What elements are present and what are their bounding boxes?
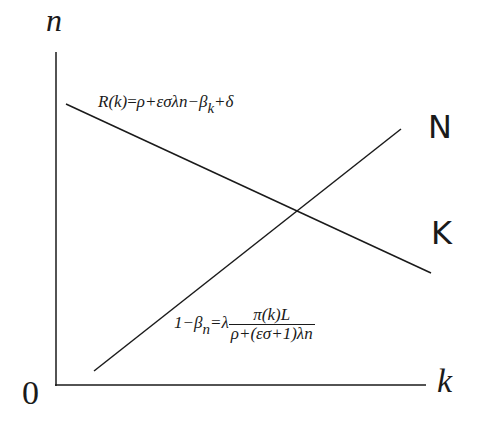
diagram-canvas (0, 0, 481, 428)
k-eq-tail: +δ (214, 92, 233, 111)
y-axis-label: n (46, 2, 62, 39)
k-eq-rhs: ρ+εσλn−β (137, 92, 208, 111)
x-axis-label: k (437, 362, 452, 400)
n-curve-equation: 1−βn=λπ(k)Lρ+(εσ+1)λn (174, 306, 315, 343)
k-curve-equation: R(k)=ρ+εσλn−βk+δ (98, 92, 233, 117)
n-eq-numerator: π(k)L (229, 306, 315, 325)
k-curve-label: K (431, 214, 452, 252)
k-eq-equals: = (127, 92, 137, 111)
n-eq-denominator: ρ+(εσ+1)λn (229, 325, 315, 343)
n-eq-fraction: π(k)Lρ+(εσ+1)λn (229, 306, 315, 343)
origin-label: 0 (22, 374, 39, 412)
n-eq-equals: =λ (210, 313, 229, 332)
n-eq-lhs: 1−β (174, 313, 202, 332)
k-eq-lhs: R(k) (98, 92, 127, 111)
n-curve-label: N (428, 108, 452, 146)
n-eq-subscript: n (202, 321, 210, 337)
k-curve-line (66, 104, 431, 273)
